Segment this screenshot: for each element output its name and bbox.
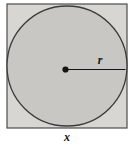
geometry-figure: r x [0,0,132,147]
figure-canvas: r x [0,0,132,147]
inscribed-circle-shape [7,6,127,126]
center-dot [62,66,68,72]
side-label: x [63,130,70,144]
radius-label: r [98,53,103,67]
